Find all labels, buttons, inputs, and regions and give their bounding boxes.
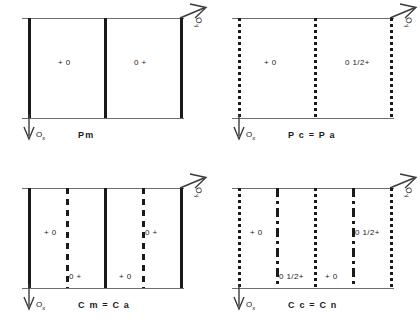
- symmetry-line-solid: [180, 188, 183, 288]
- axis-arrow-ox: [233, 284, 247, 314]
- axis-label-oy: Oy: [192, 186, 205, 198]
- symmetry-line-dotted: [238, 188, 241, 288]
- site-symbol-label: + 0: [44, 228, 57, 237]
- panel-pc-pa: + 00 1/2+: [232, 18, 396, 118]
- symmetry-line-dotted: [314, 18, 317, 118]
- site-symbol-label: 0 +: [69, 272, 82, 281]
- axis-label-ox: Ox: [36, 300, 45, 311]
- site-symbol-label: + 0: [250, 228, 263, 237]
- site-symbol-label: 0 +: [145, 228, 158, 237]
- axis-label-oy: Oy: [192, 16, 205, 28]
- symmetry-line-solid: [104, 18, 107, 118]
- symmetry-line-dotted: [390, 188, 393, 288]
- cell-frame-top: [232, 18, 394, 19]
- axis-label-ox: Ox: [246, 130, 255, 141]
- site-symbol-label: + 0: [264, 58, 277, 67]
- axis-arrow-ox: [23, 284, 37, 314]
- site-symbol-label: + 0: [58, 58, 71, 67]
- axis-arrow-ox: [233, 114, 247, 144]
- symmetry-line-dotted: [390, 18, 393, 118]
- cell-frame-bottom: [232, 288, 394, 289]
- symmetry-line-dashdot: [352, 188, 355, 288]
- site-symbol-label: + 0: [325, 272, 338, 281]
- panel-caption: C c = C n: [288, 300, 338, 310]
- symmetry-line-solid: [180, 18, 183, 118]
- site-symbol-label: 0 1/2+: [345, 58, 370, 67]
- cell-frame-bottom: [22, 288, 184, 289]
- axis-label-ox: Ox: [246, 300, 255, 311]
- site-symbol-label: 0 1/2+: [355, 228, 380, 237]
- symmetry-line-dotted: [314, 188, 317, 288]
- site-symbol-label: + 0: [119, 272, 132, 281]
- panel-pm: + 00 +: [22, 18, 186, 118]
- panel-caption: Pm: [78, 130, 94, 140]
- axis-arrow-ox: [23, 114, 37, 144]
- axis-label-oy: Oy: [402, 16, 415, 28]
- symmetry-line-solid: [28, 188, 31, 288]
- symmetry-line-solid: [28, 18, 31, 118]
- symmetry-line-dotted: [238, 18, 241, 118]
- cell-frame-top: [22, 188, 184, 189]
- cell-frame-top: [22, 18, 184, 19]
- axis-label-ox: Ox: [36, 130, 45, 141]
- symmetry-line-dashed: [142, 188, 145, 288]
- site-symbol-label: 0 1/2+: [279, 272, 304, 281]
- panel-caption: C m = C a: [78, 300, 130, 310]
- site-symbol-label: 0 +: [134, 58, 147, 67]
- panel-cc-cn: + 00 1/2+0 1/2++ 0: [232, 188, 396, 288]
- cell-frame-bottom: [232, 118, 394, 119]
- axis-label-oy: Oy: [402, 186, 415, 198]
- panel-cm-ca: + 00 +0 ++ 0: [22, 188, 186, 288]
- plane-group-diagram-figure: + 00 +OxOyPm+ 00 1/2+OxOyP c = P a+ 00 +…: [0, 0, 420, 323]
- cell-frame-top: [232, 188, 394, 189]
- symmetry-line-solid: [104, 188, 107, 288]
- panel-caption: P c = P a: [288, 130, 336, 140]
- cell-frame-bottom: [22, 118, 184, 119]
